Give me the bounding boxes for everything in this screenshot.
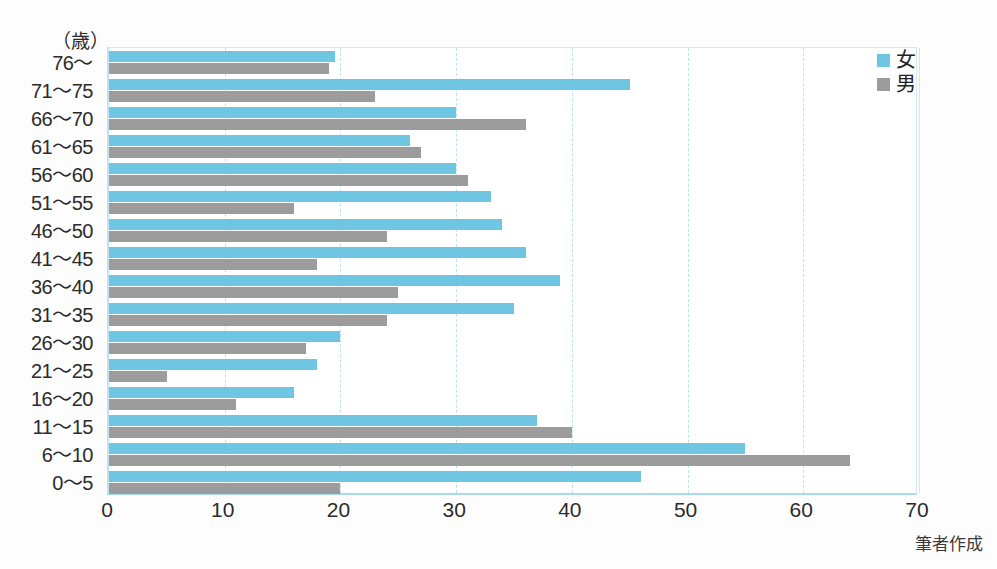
bar-male [109, 455, 850, 466]
y-axis-tick-label: 66～70 [31, 103, 93, 132]
bar-row [109, 76, 916, 104]
legend-label: 男 [896, 74, 916, 94]
x-axis-tick-label: 20 [327, 498, 350, 522]
y-axis-tick-label: 61～65 [31, 131, 93, 160]
bar-male [109, 371, 167, 382]
bar-row [109, 216, 916, 244]
bar-female [109, 443, 745, 454]
x-axis-labels: 010203040506070 [107, 498, 917, 528]
bar-row [109, 104, 916, 132]
bar-female [109, 359, 317, 370]
y-axis-tick-label: 0～5 [52, 467, 93, 496]
bar-male [109, 315, 387, 326]
y-axis-tick-label: 41～45 [31, 243, 93, 272]
chart-legend: 女男 [873, 48, 920, 96]
bar-female [109, 387, 294, 398]
bar-row [109, 384, 916, 412]
bar-female [109, 415, 537, 426]
x-axis-tick-label: 40 [558, 498, 581, 522]
legend-item: 男 [877, 74, 916, 94]
bar-female [109, 303, 514, 314]
bar-female [109, 331, 340, 342]
y-axis-tick-label: 6～10 [42, 439, 93, 468]
bar-row [109, 328, 916, 356]
y-axis-tick-label: 71～75 [31, 75, 93, 104]
source-caption: 筆者作成 [915, 530, 983, 555]
y-axis-tick-label: 11～15 [32, 411, 93, 440]
bar-female [109, 191, 491, 202]
bar-male [109, 63, 329, 74]
y-axis-labels: 76～71～7566～7061～6556～6051～5546～5041～4536… [0, 47, 100, 495]
bar-row [109, 468, 916, 496]
bar-row [109, 356, 916, 384]
x-axis-tick-label: 50 [674, 498, 697, 522]
y-axis-tick-label: 51～55 [31, 187, 93, 216]
legend-label: 女 [896, 50, 916, 70]
bar-male [109, 203, 294, 214]
bar-female [109, 163, 456, 174]
bar-male [109, 287, 398, 298]
bar-female [109, 107, 456, 118]
y-axis-tick-label: 26～30 [31, 327, 93, 356]
bar-female [109, 471, 641, 482]
x-axis-tick-label: 60 [790, 498, 813, 522]
bar-male [109, 483, 340, 494]
legend-item: 女 [877, 50, 916, 70]
bar-row [109, 244, 916, 272]
bar-female [109, 51, 335, 62]
bar-male [109, 119, 526, 130]
bar-row [109, 48, 916, 76]
bar-row [109, 412, 916, 440]
y-axis-tick-label: 36～40 [31, 271, 93, 300]
bar-row [109, 440, 916, 468]
bar-row [109, 272, 916, 300]
x-axis-tick-label: 0 [101, 498, 113, 522]
bar-male [109, 427, 572, 438]
x-axis-tick-label: 30 [442, 498, 465, 522]
bar-male [109, 399, 236, 410]
bar-chart: （歳） 76～71～7566～7061～6556～6051～5546～5041～… [0, 0, 997, 569]
bar-male [109, 91, 375, 102]
y-axis-tick-label: 56～60 [31, 159, 93, 188]
bar-female [109, 275, 560, 286]
bar-male [109, 147, 421, 158]
bar-female [109, 135, 410, 146]
gridline-70 [919, 48, 920, 493]
bar-male [109, 259, 317, 270]
bar-female [109, 79, 630, 90]
y-axis-tick-label: 31～35 [31, 299, 93, 328]
plot-area [107, 47, 917, 495]
y-axis-tick-label: 16～20 [31, 383, 93, 412]
male-swatch [877, 78, 890, 91]
bar-female [109, 247, 526, 258]
x-axis-tick-label: 10 [211, 498, 234, 522]
bar-row [109, 300, 916, 328]
bar-female [109, 219, 502, 230]
x-axis-tick-label: 70 [905, 498, 928, 522]
bar-row [109, 188, 916, 216]
female-swatch [877, 54, 890, 67]
bar-row [109, 132, 916, 160]
bar-male [109, 343, 306, 354]
bar-row [109, 160, 916, 188]
y-axis-tick-label: 46～50 [31, 215, 93, 244]
y-axis-tick-label: 76～ [52, 47, 93, 76]
bar-male [109, 231, 387, 242]
bar-male [109, 175, 468, 186]
bar-rows [109, 48, 916, 493]
y-axis-tick-label: 21～25 [31, 355, 93, 384]
